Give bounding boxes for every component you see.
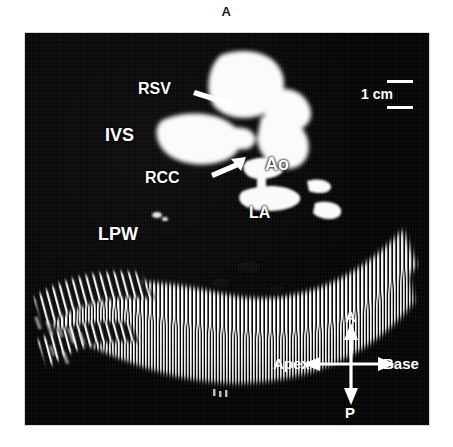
- annotation-ivs: IVS: [105, 126, 134, 144]
- ultrasound-scan-panel: RSV IVS RCC Ao LA LPW 1 cm: [25, 33, 429, 425]
- panel-letter: A: [0, 4, 453, 19]
- annotation-la: LA: [249, 205, 270, 221]
- compass-label-anterior: A: [345, 309, 356, 324]
- scale-bar-tick-bottom: [387, 106, 413, 109]
- scale-bar-label: 1 cm: [361, 86, 393, 102]
- scale-bar-tick-top: [387, 80, 413, 83]
- compass-label-posterior: P: [345, 405, 355, 420]
- compass-label-apex: Apex: [273, 356, 310, 371]
- compass-label-base: Base: [383, 356, 419, 371]
- orientation-compass: A P Apex Base: [273, 309, 425, 417]
- echocardiogram-figure: A: [0, 0, 453, 447]
- annotation-rcc: RCC: [145, 170, 180, 186]
- annotation-ao: Ao: [265, 155, 289, 173]
- annotation-rsv: RSV: [138, 81, 171, 97]
- annotation-lpw: LPW: [98, 225, 138, 243]
- scale-bar: 1 cm: [361, 75, 423, 115]
